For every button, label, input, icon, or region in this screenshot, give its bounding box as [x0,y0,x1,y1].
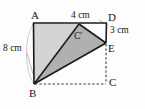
vertex-label-a: A [31,10,39,21]
geometry-figure: A D C B C' E 8 cm 4 cm 3 cm [0,0,145,109]
vertex-label-e: E [108,43,115,54]
vertex-label-b: B [29,88,36,99]
vertex-label-c: C [109,77,116,88]
edge-ab [34,23,35,84]
dimension-label-ab-8cm: 8 cm [3,44,22,54]
vertex-label-c-prime: C' [74,32,82,42]
vertex-label-d: D [108,12,116,23]
dimension-label-de-3cm: 3 cm [110,26,129,36]
edge-de [106,23,107,43]
leader-line-8cm [27,53,33,74]
dimension-label-cprime-d-4cm: 4 cm [71,11,90,21]
